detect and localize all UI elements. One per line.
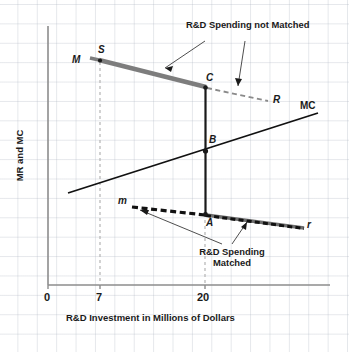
point-label-B: B: [209, 134, 216, 145]
annotation-matched-line1: R&D Spending: [186, 247, 278, 258]
y-axis-title: MR and MC: [14, 111, 25, 201]
annotation-matched: R&D Spending Matched: [186, 247, 278, 268]
xtick-label-20: 20: [197, 291, 209, 303]
ms-segment-tail: [90, 58, 99, 60]
arrowhead-matched-to-ma: [140, 210, 149, 215]
point-label-R: R: [273, 94, 280, 105]
chart-canvas: M S C B A R m r MC R&D Spending not Matc…: [0, 0, 349, 352]
point-S: [98, 58, 102, 62]
xtick-label-7: 7: [96, 291, 102, 303]
mc-curve: [68, 113, 318, 193]
point-C: [203, 85, 208, 90]
cr-segment-dashed: [207, 88, 268, 101]
point-label-M: M: [72, 54, 80, 65]
x-axis-title: R&D Investment in Millions of Dollars: [66, 313, 235, 324]
arrowhead-not-matched-to-cr: [235, 78, 242, 86]
point-B: [203, 148, 208, 153]
annotation-not-matched: R&D Spending not Matched: [186, 20, 309, 31]
point-label-m: m: [118, 195, 127, 206]
ms-segment-unmatched: [99, 60, 206, 87]
chart-plot-area: [0, 0, 349, 352]
curve-label-mc: MC: [300, 100, 316, 111]
point-label-A: A: [206, 217, 213, 228]
annotation-matched-line2: Matched: [186, 258, 278, 269]
point-label-r: r: [307, 219, 311, 230]
point-label-S: S: [98, 44, 105, 55]
leader-not-matched-to-ms: [165, 41, 205, 68]
point-label-C: C: [206, 72, 213, 83]
xtick-label-0: 0: [44, 291, 50, 303]
